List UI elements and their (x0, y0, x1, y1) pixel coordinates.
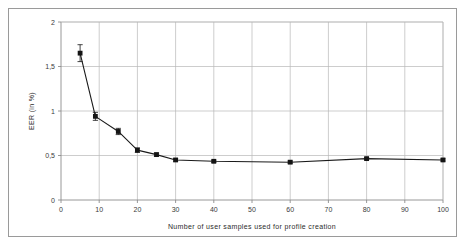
data-point-marker (211, 159, 216, 164)
y-tick-label: 1,5 (45, 63, 55, 70)
x-tick-label: 100 (437, 206, 449, 213)
x-tick-label: 40 (210, 206, 218, 213)
data-line (80, 53, 443, 162)
data-point-marker (78, 51, 83, 56)
x-tick-label: 60 (286, 206, 294, 213)
y-tick-label: 0 (51, 197, 55, 204)
data-point-marker (135, 148, 140, 153)
data-point-marker (173, 158, 178, 163)
x-tick-label: 20 (134, 206, 142, 213)
data-point-marker (364, 156, 369, 161)
x-tick-label: 0 (59, 206, 63, 213)
x-tick-label: 70 (325, 206, 333, 213)
data-point-marker (288, 160, 293, 165)
x-tick-label: 30 (172, 206, 180, 213)
x-tick-label: 90 (401, 206, 409, 213)
axis-lines (58, 22, 443, 203)
x-tick-label: 50 (248, 206, 256, 213)
x-axis-tick-labels: 0102030405060708090100 (59, 206, 449, 213)
chart-figure: 0102030405060708090100 00,511,52 Number … (0, 0, 467, 247)
y-tick-label: 0,5 (45, 152, 55, 159)
data-markers (78, 51, 446, 165)
data-point-marker (93, 114, 98, 119)
x-tick-label: 80 (363, 206, 371, 213)
x-axis-title: Number of user samples used for profile … (168, 223, 336, 231)
y-axis-title: EER (in %) (28, 92, 36, 130)
data-point-marker (116, 129, 121, 134)
data-point-marker (441, 158, 446, 163)
data-point-marker (154, 152, 159, 157)
y-tick-label: 1 (51, 108, 55, 115)
gridlines (61, 22, 443, 200)
y-tick-label: 2 (51, 19, 55, 26)
series-line-eer (80, 53, 443, 162)
y-axis-tick-labels: 00,511,52 (45, 19, 55, 204)
eer-line-chart: 0102030405060708090100 00,511,52 Number … (0, 0, 467, 247)
x-tick-label: 10 (95, 206, 103, 213)
